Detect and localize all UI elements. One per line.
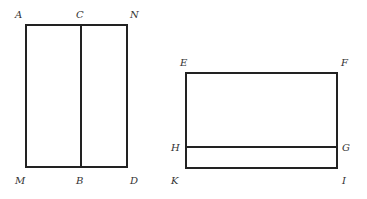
label-c: C [76,9,84,20]
label-k: K [170,175,179,186]
label-b: B [75,175,83,186]
left-figure: A C N M B D [14,9,140,186]
label-i: I [341,175,347,186]
label-e: E [179,57,188,68]
label-d: D [129,175,138,186]
rectangle-ekif [186,73,337,168]
right-figure: E F H G K I [170,57,350,186]
label-n: N [129,9,140,20]
label-f: F [340,57,349,68]
label-h: H [170,142,180,153]
geometry-diagram: A C N M B D E F H G K I [0,0,367,199]
label-m: M [14,175,26,186]
rectangle-amdn [26,25,127,167]
label-a: A [14,9,22,20]
label-g: G [342,142,350,153]
